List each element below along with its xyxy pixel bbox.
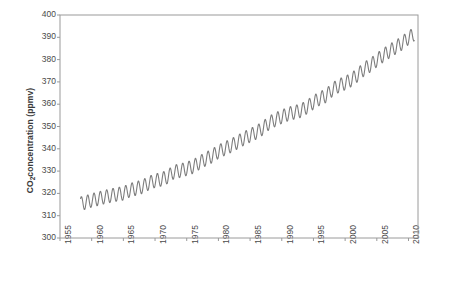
co2-concentration-chart: CO2 concentration (ppmv) 300310320330340… bbox=[0, 0, 453, 281]
co2-data-line bbox=[81, 29, 415, 209]
axis-frame bbox=[60, 15, 418, 238]
plot-area bbox=[0, 0, 453, 281]
